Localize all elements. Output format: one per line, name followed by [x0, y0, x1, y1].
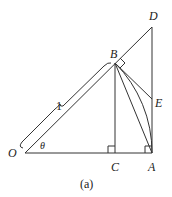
label-theta: θ: [40, 140, 45, 151]
label-C: C: [111, 160, 120, 174]
segment-BA: [115, 63, 152, 153]
figure-caption: (a): [80, 177, 93, 191]
label-O: O: [8, 146, 17, 160]
brace-OB: [20, 63, 111, 148]
geometry-diagram: D B E O θ C A 1 (a): [0, 0, 172, 197]
label-A: A: [147, 160, 156, 174]
label-length-1: 1: [56, 99, 62, 113]
segment-OD: [25, 27, 152, 153]
label-D: D: [148, 9, 158, 23]
right-angle-B: [120, 58, 125, 68]
label-B: B: [110, 47, 118, 61]
label-E: E: [154, 96, 163, 110]
right-angle-C: [108, 146, 115, 153]
